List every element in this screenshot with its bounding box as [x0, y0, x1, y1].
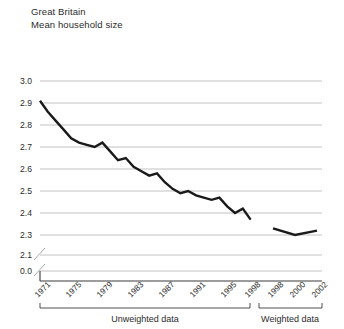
y-tick-label: 2.9 — [20, 98, 32, 108]
x-tick-label: 1995 — [219, 280, 239, 300]
chart-container: Great Britain Mean household size 3.0 2.… — [0, 0, 344, 329]
y-tick-label: 2.3 — [20, 230, 32, 240]
series-line-weighted — [273, 228, 317, 235]
x-tick-label: 1987 — [157, 280, 177, 300]
x-tick-label: 1983 — [126, 280, 146, 300]
x-axis-tick-labels: 1971 1975 1979 1983 1987 1991 1995 1998 … — [33, 280, 330, 300]
line-chart-svg: 3.0 2.9 2.8 2.7 2.6 2.5 2.4 2.3 2.1 0.0 … — [0, 0, 344, 329]
x-tick-label: 1979 — [95, 280, 115, 300]
x-tick-label: 2002 — [310, 280, 330, 300]
x-axis — [40, 271, 322, 281]
y-tick-label: 2.6 — [20, 164, 32, 174]
data-series-weighted — [273, 228, 317, 235]
y-tick-label: 3.0 — [20, 76, 32, 86]
x-tick-label: 1971 — [33, 280, 53, 300]
group-brackets — [40, 303, 322, 308]
bracket-unweighted — [40, 303, 250, 308]
series-line-unweighted — [40, 101, 251, 220]
x-tick-label: 1998 — [243, 280, 263, 300]
x-tick-label: 1991 — [188, 280, 208, 300]
group-labels: Unweighted data Weighted data — [111, 314, 319, 324]
y-tick-label: 2.7 — [20, 142, 32, 152]
y-tick-label: 2.1 — [20, 250, 32, 260]
weighted-data-label: Weighted data — [261, 314, 319, 324]
data-series-unweighted — [40, 101, 251, 220]
y-tick-label: 2.8 — [20, 120, 32, 130]
x-tick-label: 2000 — [288, 280, 308, 300]
x-tick-label: 1975 — [64, 280, 84, 300]
y-tick-label: 2.4 — [20, 208, 32, 218]
x-tick-label: 1998 — [266, 280, 286, 300]
axis-break-upper — [34, 248, 45, 260]
gridlines — [40, 81, 322, 271]
bracket-weighted — [259, 303, 322, 308]
y-tick-label: 2.5 — [20, 186, 32, 196]
unweighted-data-label: Unweighted data — [111, 314, 179, 324]
y-axis-tick-labels: 3.0 2.9 2.8 2.7 2.6 2.5 2.4 2.3 2.1 0.0 — [20, 76, 32, 276]
y-tick-label: 0.0 — [20, 266, 32, 276]
